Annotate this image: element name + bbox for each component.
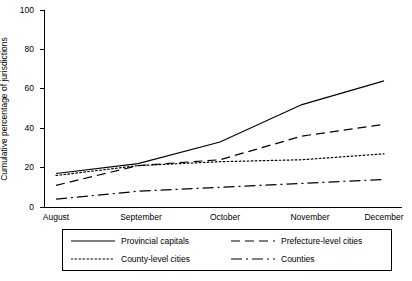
legend-label-provincial-capitals: Provincial capitals bbox=[121, 236, 189, 246]
y-axis-title: Cumulative percentage of jurisdictions bbox=[0, 37, 9, 181]
y-tick-label-100: 100 bbox=[20, 5, 34, 15]
series-county-level-cities bbox=[56, 154, 384, 176]
x-tick-label-october: October bbox=[210, 212, 240, 222]
legend-item-counties: Counties bbox=[231, 254, 391, 264]
series-prefecture-level-cities bbox=[56, 124, 384, 185]
y-tick-label-40: 40 bbox=[25, 123, 34, 133]
legend-line-dash-dot-icon bbox=[231, 254, 275, 264]
y-tick-label-60: 60 bbox=[25, 83, 34, 93]
legend-line-long-dash-icon bbox=[231, 236, 275, 246]
x-tick-label-december: December bbox=[364, 212, 403, 222]
y-tick-label-80: 80 bbox=[25, 44, 34, 54]
plot-area: 0 20 40 60 80 100 August September Octob… bbox=[44, 10, 402, 208]
x-tick-label-november: November bbox=[290, 212, 329, 222]
legend-line-solid-icon bbox=[71, 236, 115, 246]
x-tick-label-august: August bbox=[43, 212, 69, 222]
legend-item-provincial-capitals: Provincial capitals bbox=[71, 236, 231, 246]
series-canvas bbox=[44, 10, 402, 208]
series-counties bbox=[56, 179, 384, 199]
line-chart: 0 20 40 60 80 100 August September Octob… bbox=[0, 0, 412, 281]
legend-label-prefecture-level-cities: Prefecture-level cities bbox=[281, 236, 362, 246]
y-tick-label-20: 20 bbox=[25, 162, 34, 172]
legend-item-county-level-cities: County-level cities bbox=[71, 254, 231, 264]
x-tick-label-september: September bbox=[120, 212, 162, 222]
legend: Provincial capitals Prefecture-level cit… bbox=[62, 229, 392, 271]
legend-item-prefecture-level-cities: Prefecture-level cities bbox=[231, 236, 391, 246]
legend-label-county-level-cities: County-level cities bbox=[121, 254, 190, 264]
y-axis-title-wrap: Cumulative percentage of jurisdictions bbox=[10, 0, 11, 198]
y-tick-label-0: 0 bbox=[29, 202, 34, 212]
series-provincial-capitals bbox=[56, 81, 384, 174]
legend-label-counties: Counties bbox=[281, 254, 315, 264]
legend-line-dotted-icon bbox=[71, 254, 115, 264]
